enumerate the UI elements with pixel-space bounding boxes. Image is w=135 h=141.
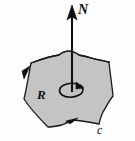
- boundary-curve-label: c: [97, 124, 102, 136]
- region-label: R: [37, 88, 46, 101]
- figure-container: N R c: [0, 0, 135, 141]
- normal-vector-label: N: [78, 3, 88, 17]
- vector-figure: [0, 0, 135, 141]
